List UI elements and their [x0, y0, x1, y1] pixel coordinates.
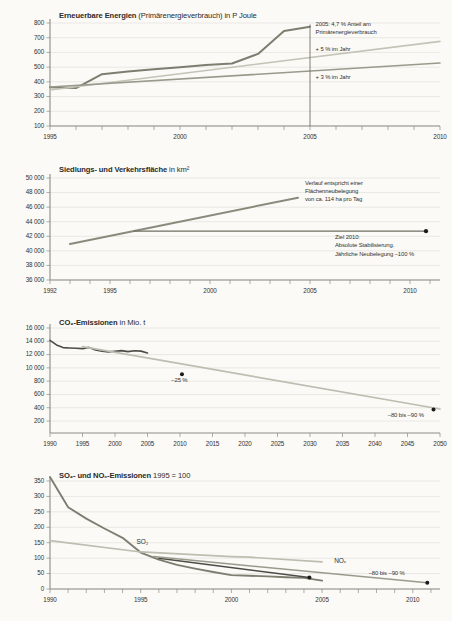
y-axis-tick-label: 600: [34, 390, 44, 397]
x-axis-tick-label: 2010: [393, 596, 433, 603]
annotation-line: von ca. 114 ha pro Tag: [305, 195, 363, 203]
x-axis-tick-label: 2010: [390, 287, 430, 294]
y-axis-tick-label: 700: [34, 34, 44, 41]
annotation-line: –25 %: [171, 376, 187, 384]
y-axis-tick-label: 40 000: [26, 247, 44, 254]
y-axis-tick-label: 0: [41, 585, 44, 592]
y-axis-tick-label: 350: [34, 477, 44, 484]
annotation-line: –80 bis –90 %: [369, 569, 405, 577]
annotation-line: + 3 % im Jahr: [316, 73, 351, 81]
y-axis-tick-label: 200: [34, 523, 44, 530]
x-axis-tick-label: 1992: [30, 287, 70, 294]
y-axis-tick-label: 38 000: [26, 261, 44, 268]
chart-annotation: 2005: 4,7 % Anteil amPrimärenergieverbra…: [316, 20, 377, 37]
y-axis-tick-label: 500: [34, 63, 44, 70]
annotation-line: NOₓ: [334, 557, 346, 565]
annotation-line: Flächenneubelegung: [305, 187, 363, 195]
chart-panel-co2-emissions: CO₂-Emissionen in Mio. t 16 00014 00012 …: [0, 315, 447, 465]
y-axis-tick-label: 400: [34, 78, 44, 85]
chart-panel-settlement-area: Siedlungs- und Verkehrsfläche in km² 50 …: [0, 156, 447, 315]
annotation-line: Ziel 2010:: [335, 233, 414, 241]
annotation-line: Primärenergieverbrauch: [316, 28, 377, 36]
chart-annotation: Ziel 2010:Absolute Stabilisierung.Jährli…: [335, 233, 414, 258]
x-axis-tick-label: 2000: [190, 287, 230, 294]
chart-annotation: + 3 % im Jahr: [316, 73, 351, 81]
y-axis-tick-label: 16 000: [26, 324, 44, 331]
y-axis-tick-label: 50 000: [26, 174, 44, 181]
data-series-line: [50, 63, 440, 87]
y-axis-tick-label: 300: [34, 92, 44, 99]
data-point-marker: [432, 407, 436, 411]
annotation-line: 2005: 4,7 % Anteil am: [316, 20, 377, 28]
y-axis-tick-label: 100: [34, 554, 44, 561]
y-axis-tick-label: 10 000: [26, 364, 44, 371]
data-point-marker: [307, 576, 311, 580]
data-series-line: [83, 347, 441, 409]
x-axis-tick-label: 2000: [211, 596, 251, 603]
annotation-line: Absolute Stabilisierung.: [335, 241, 414, 249]
chart-panel-renewable-energy: Erneuerbare Energien (Primärenergieverbr…: [0, 0, 447, 156]
y-axis-tick-label: 800: [34, 19, 44, 26]
x-axis-tick-label: 2010: [420, 133, 452, 140]
y-axis-tick-label: 42 000: [26, 232, 44, 239]
data-series-line: [50, 477, 322, 581]
y-axis-tick-label: 36 000: [26, 276, 44, 283]
chart-annotation: –25 %: [171, 376, 187, 384]
data-series-line: [50, 541, 322, 562]
chart-annotation: Verlauf entspricht einerFlächenneubelegu…: [305, 179, 363, 204]
data-point-marker: [424, 229, 428, 233]
y-axis-tick-label: 400: [34, 404, 44, 411]
x-axis-tick-label: 1995: [121, 596, 161, 603]
y-axis-tick-label: 200: [34, 417, 44, 424]
y-axis-tick-label: 800: [34, 377, 44, 384]
y-axis-tick-label: 14 000: [26, 337, 44, 344]
y-axis-tick-label: 46 000: [26, 203, 44, 210]
y-axis-tick-label: 50: [37, 569, 44, 576]
y-axis-tick-label: 250: [34, 508, 44, 515]
chart-annotation: –80 bis –90 %: [388, 411, 424, 419]
y-axis-tick-label: 600: [34, 48, 44, 55]
y-axis-tick-label: 100: [34, 122, 44, 129]
x-axis-tick-label: 2005: [290, 133, 330, 140]
x-axis-tick-label: 2005: [302, 596, 342, 603]
y-axis-tick-label: 300: [34, 492, 44, 499]
chart-annotation: + 5 % im Jahr: [316, 45, 351, 53]
x-axis-tick-label: 1990: [30, 596, 70, 603]
y-axis-tick-label: 48 000: [26, 188, 44, 195]
chart-annotation: SO₂: [136, 538, 148, 546]
chart-annotation: NOₓ: [334, 557, 346, 565]
annotation-line: SO₂: [136, 538, 148, 546]
annotation-line: –80 bis –90 %: [388, 411, 424, 419]
x-axis-tick-label: 2050: [420, 440, 452, 447]
chart-panel-so2-nox-emissions: SO₂- und NOₓ-Emissionen 1995 = 100 35030…: [0, 465, 447, 621]
data-series-line: [50, 340, 148, 353]
y-axis-tick-label: 200: [34, 107, 44, 114]
annotation-line: Jährliche Neubelegung –100 %: [335, 250, 414, 258]
chart-annotation: –80 bis –90 %: [369, 569, 405, 577]
data-point-marker: [425, 581, 429, 585]
annotation-line: Verlauf entspricht einer: [305, 179, 363, 187]
x-axis-tick-label: 2000: [160, 133, 200, 140]
x-axis-tick-label: 2005: [290, 287, 330, 294]
y-axis-tick-label: 12 000: [26, 350, 44, 357]
y-axis-tick-label: 44 000: [26, 218, 44, 225]
annotation-line: + 5 % im Jahr: [316, 45, 351, 53]
x-axis-tick-label: 1995: [30, 133, 70, 140]
data-series-line: [70, 198, 298, 244]
y-axis-tick-label: 150: [34, 539, 44, 546]
x-axis-tick-label: 1995: [90, 287, 130, 294]
